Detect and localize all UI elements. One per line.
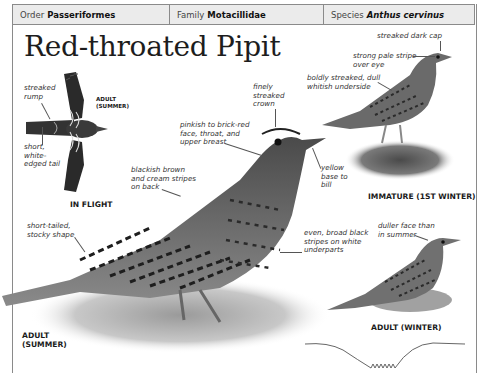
family-value: Motacillidae: [207, 10, 265, 20]
annotation-short-tailed-stocky: short-tailed, stocky shape: [27, 222, 74, 239]
page-title: Red-throated Pipit: [24, 30, 280, 63]
taxonomy-header: Order Passeriformes Family Motacillidae …: [12, 4, 475, 25]
leader-line: [275, 109, 276, 127]
immature-caption: IMMATURE (1ST WINTER): [368, 192, 476, 201]
species-value: Anthus cervinus: [367, 10, 444, 20]
species-cell: Species Anthus cervinus: [323, 5, 474, 24]
annotation-streaked-dark-cap: streaked dark cap: [377, 32, 442, 41]
annotation-back-stripes: blackish brown and cream stripes on back: [131, 166, 196, 192]
family-cell: Family Motacillidae: [169, 5, 323, 24]
annotation-boldly-streaked-underside: boldly streaked, dull whitish underside: [307, 74, 380, 91]
annotation-duller-face: duller face than in summer: [378, 222, 435, 239]
leader-line: [413, 56, 435, 57]
order-label: Order: [20, 10, 44, 20]
annotation-pinkish-face: pinkish to brick-red face, throat, and u…: [180, 121, 250, 147]
flight-pattern-icon: [303, 340, 468, 370]
adult-summer-caption: ADULT (SUMMER): [22, 331, 67, 349]
leader-line: [440, 41, 441, 51]
adult-winter-caption: ADULT (WINTER): [371, 323, 441, 332]
order-cell: Order Passeriformes: [13, 5, 169, 24]
family-label: Family: [177, 10, 204, 20]
annotation-pale-eye-stripe: strong pale stripe over eye: [353, 52, 417, 69]
flight-age-label: ADULT (SUMMER): [96, 96, 129, 110]
leader-line: [280, 252, 302, 253]
adult-winter-bird-illustration: [325, 230, 465, 320]
species-label: Species: [331, 10, 364, 20]
annotation-streaked-rump: streaked rump: [24, 84, 56, 101]
annotation-finely-streaked-crown: finely streaked crown: [253, 83, 285, 109]
order-value: Passeriformes: [47, 10, 115, 20]
